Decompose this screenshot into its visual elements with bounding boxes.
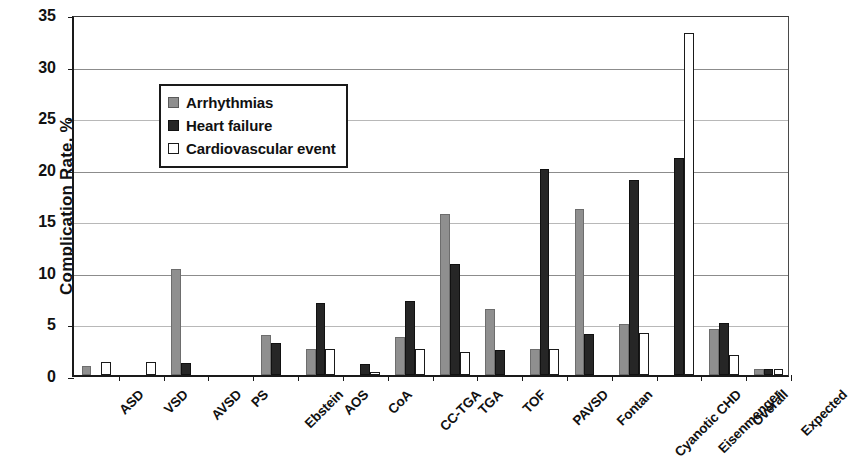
x-axis-tick-label: Expected [798, 387, 850, 439]
bar [619, 324, 629, 375]
bar [684, 33, 694, 375]
x-axis-tickmark [791, 375, 792, 381]
bar-group [754, 17, 784, 375]
bar [370, 372, 380, 375]
bar [674, 158, 684, 375]
bar-group [216, 17, 246, 375]
bar [415, 349, 425, 375]
bar [325, 349, 335, 375]
y-axis-tickmark [68, 17, 74, 18]
bar-group [350, 17, 380, 375]
bar [271, 343, 281, 375]
bar [405, 301, 415, 375]
bar [575, 209, 585, 375]
bar-group [261, 17, 291, 375]
y-axis-tick-label: 15 [22, 213, 56, 231]
y-axis-tick-label: 30 [22, 59, 56, 77]
y-axis-tickmark [68, 223, 74, 224]
bar [495, 350, 505, 375]
bar-group [619, 17, 649, 375]
bar [774, 369, 784, 375]
bar [709, 329, 719, 375]
legend-item: Cardiovascular event [168, 137, 336, 160]
y-axis-tick-label: 0 [22, 368, 56, 386]
bar [540, 169, 550, 375]
x-axis-tick-label: CC-TGA [437, 387, 484, 434]
x-axis-tick-label: ASD [117, 387, 147, 417]
x-axis-tick-label: Cyanotic CHD [672, 387, 745, 460]
legend-label: Heart failure [186, 117, 272, 134]
legend-label: Cardiovascular event [186, 140, 336, 157]
x-axis-tick-label: PAVSD [569, 387, 610, 428]
x-axis-tick-label: TOF [519, 387, 548, 416]
bar [360, 364, 370, 375]
x-axis-tick-label: TGA [475, 387, 505, 417]
bar [181, 363, 191, 375]
bar [101, 362, 111, 375]
bar [261, 335, 271, 375]
x-axis-tick-label: Fontan [614, 387, 656, 429]
legend-swatch-icon [168, 143, 179, 154]
bar [530, 349, 540, 375]
x-axis-tick-label: AVSD [208, 387, 244, 423]
y-axis-tickmark [68, 69, 74, 70]
bar-group [485, 17, 515, 375]
x-axis-tick-label: VSD [161, 387, 191, 417]
y-axis-tick-label: 5 [22, 316, 56, 334]
y-axis-tickmark [68, 120, 74, 121]
bar-group [395, 17, 425, 375]
bar-group [126, 17, 156, 375]
y-axis-tickmark [68, 275, 74, 276]
bar [316, 303, 326, 375]
y-axis-tickmark [68, 326, 74, 327]
bar [754, 369, 764, 375]
bar [450, 264, 460, 375]
y-axis-tick-labels: 05101520253035 [20, 0, 56, 470]
legend-swatch-icon [168, 97, 179, 108]
bar [395, 337, 405, 375]
y-axis-tick-label: 35 [22, 7, 56, 25]
x-axis-tick-label: AOS [341, 387, 372, 418]
plot-area [72, 16, 789, 377]
bar-group [171, 17, 201, 375]
bar-group [664, 17, 694, 375]
bar-group [530, 17, 560, 375]
x-axis-tick-label: PS [248, 387, 271, 410]
bar [485, 309, 495, 375]
bar [440, 214, 450, 375]
bar [729, 355, 739, 375]
y-axis-tick-label: 25 [22, 110, 56, 128]
x-axis-tick-label: CoA [385, 387, 415, 417]
x-axis-tick-label: Ebstein [302, 387, 346, 431]
bar-group [440, 17, 470, 375]
bar [171, 269, 181, 375]
bar [146, 362, 156, 375]
legend-item: Heart failure [168, 114, 336, 137]
y-axis-tick-label: 10 [22, 265, 56, 283]
bar [639, 333, 649, 375]
bar-group [306, 17, 336, 375]
bar-group [82, 17, 112, 375]
x-axis-tick-labels: ASDVSDAVSDPSEbsteinAOSCoACC-TGATGATOFPAV… [72, 377, 789, 470]
bar [764, 369, 774, 375]
chart-legend: ArrhythmiasHeart failureCardiovascular e… [159, 84, 348, 168]
bar [584, 334, 594, 375]
bar [82, 366, 92, 375]
bar [460, 352, 470, 375]
bar [306, 349, 316, 375]
y-axis-tick-label: 20 [22, 162, 56, 180]
bar-group [575, 17, 605, 375]
bar [549, 349, 559, 375]
legend-swatch-icon [168, 120, 179, 131]
legend-label: Arrhythmias [186, 94, 273, 111]
bar [629, 180, 639, 375]
legend-item: Arrhythmias [168, 91, 336, 114]
bar-group [709, 17, 739, 375]
y-axis-tickmark [68, 172, 74, 173]
bar [719, 323, 729, 375]
